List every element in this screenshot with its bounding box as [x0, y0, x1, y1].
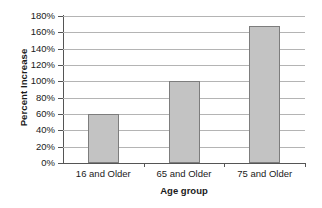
- bar: [169, 81, 200, 163]
- y-tick-label: 20%: [0, 142, 55, 152]
- x-tick-label: 65 and Older: [139, 168, 229, 179]
- bar: [88, 114, 119, 163]
- x-tick-label: 75 and Older: [220, 168, 310, 179]
- y-tick-label: 100%: [0, 76, 55, 86]
- x-tick-mark: [144, 163, 145, 167]
- y-tick-label: 0%: [0, 158, 55, 168]
- x-tick-mark: [305, 163, 306, 167]
- bar-chart: Percent Increase 0%20%40%60%80%100%120%1…: [0, 0, 322, 208]
- y-tick-label: 80%: [0, 93, 55, 103]
- y-tick-label: 140%: [0, 44, 55, 54]
- y-tick-label: 160%: [0, 27, 55, 37]
- y-tick-label: 120%: [0, 60, 55, 70]
- axis-baseline: [63, 163, 305, 164]
- plot-area: [63, 16, 305, 163]
- y-tick-label: 40%: [0, 125, 55, 135]
- x-tick-label: 16 and Older: [58, 168, 148, 179]
- y-tick-label: 180%: [0, 11, 55, 21]
- bar: [249, 26, 280, 163]
- y-tick-label: 60%: [0, 109, 55, 119]
- x-tick-mark: [224, 163, 225, 167]
- gridline: [63, 16, 305, 17]
- x-axis-title: Age group: [63, 185, 305, 196]
